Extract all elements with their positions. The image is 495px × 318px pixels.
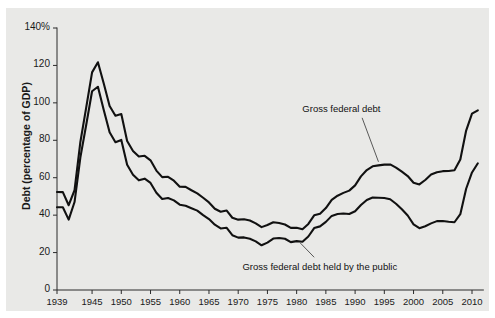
series-line-1 xyxy=(57,62,478,229)
annotation-gross-federal-debt: Gross federal debt xyxy=(302,103,380,114)
y-tick-label: 140% xyxy=(8,21,50,32)
y-tick-label: 120 xyxy=(8,58,50,69)
x-tick-label: 2010 xyxy=(452,296,492,307)
y-tick-label: 80 xyxy=(8,133,50,144)
y-tick-label: 0 xyxy=(8,283,50,294)
leader-lines-group xyxy=(300,118,378,257)
axes-group xyxy=(53,28,484,295)
y-tick-label: 100 xyxy=(8,96,50,107)
series-line-2 xyxy=(57,87,478,246)
annotation-debt-held-by-public: Gross federal debt held by the public xyxy=(242,261,397,272)
y-tick-label: 20 xyxy=(8,246,50,257)
y-tick-label: 60 xyxy=(8,171,50,182)
series-group xyxy=(57,62,478,245)
x-tick-label: 1939 xyxy=(37,296,77,307)
y-tick-label: 40 xyxy=(8,208,50,219)
